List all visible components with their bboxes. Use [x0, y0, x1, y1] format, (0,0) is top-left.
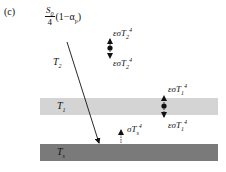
flux-layer1-up: εσT14	[168, 84, 187, 94]
arrows-overlay	[0, 0, 226, 172]
flux-layer2-down: εσT24	[113, 58, 132, 68]
layer1-dot	[161, 103, 166, 108]
flux-layer2-up: εσT24	[113, 28, 132, 38]
flux-surface-up: σTs4	[127, 124, 142, 134]
layer2-dot	[107, 45, 112, 50]
flux-layer1-down: εσT14	[168, 120, 187, 130]
solar-arrow	[67, 42, 99, 143]
